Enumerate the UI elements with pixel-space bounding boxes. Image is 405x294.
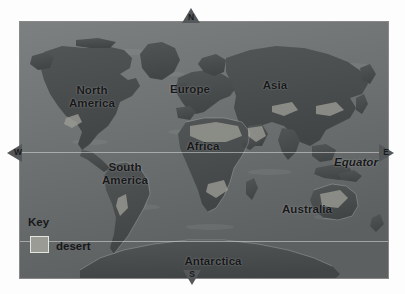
label-europe: Europe xyxy=(166,83,214,96)
label-south-america: South America xyxy=(93,161,157,187)
label-australia: Australia xyxy=(278,203,336,216)
compass-west-label: W xyxy=(12,148,24,157)
label-north-america: North America xyxy=(62,84,122,110)
legend-swatch-desert xyxy=(30,236,49,253)
label-equator: Equator xyxy=(330,156,382,169)
label-antarctica: Antarctica xyxy=(180,255,246,268)
world-map-figure: North America Europe Asia Africa South A… xyxy=(0,0,405,294)
compass-north-label: N xyxy=(185,13,197,22)
label-asia: Asia xyxy=(258,79,292,92)
compass-east-label: E xyxy=(380,148,392,157)
compass-south-label: S xyxy=(186,270,198,279)
legend-label-desert: desert xyxy=(56,240,91,253)
legend-title: Key xyxy=(28,216,49,229)
label-africa: Africa xyxy=(183,140,223,153)
